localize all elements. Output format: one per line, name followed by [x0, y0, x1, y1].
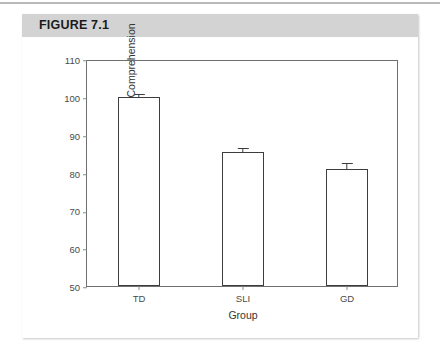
- x-axis-title: Group: [87, 309, 399, 321]
- page-top-rule: [0, 2, 440, 4]
- y-tick-mark: [83, 212, 87, 213]
- error-bar-sli: [242, 148, 243, 153]
- y-tick-mark: [83, 250, 87, 251]
- bar-column: [326, 59, 368, 286]
- y-tick: 80: [69, 170, 87, 180]
- y-tick-mark: [83, 136, 87, 137]
- bar-sli: [222, 152, 264, 286]
- error-bar-gd: [346, 163, 347, 169]
- y-tick: 60: [69, 245, 87, 255]
- x-tick-mark: [243, 286, 244, 290]
- x-tick-label-sli: SLI: [236, 293, 250, 304]
- y-tick: 110: [65, 56, 87, 66]
- figure-number-label: FIGURE 7.1: [39, 18, 109, 32]
- y-tick: 70: [69, 208, 87, 218]
- x-tick-mark: [139, 286, 140, 290]
- bar-gd: [326, 169, 368, 286]
- y-tick-mark: [83, 61, 87, 62]
- x-tick-mark: [347, 286, 348, 290]
- bar-td: [118, 97, 160, 286]
- y-tick-mark: [83, 174, 87, 175]
- chart-axes-frame: Standard Score for Reading Comprehension…: [86, 60, 398, 287]
- y-tick-label: 60: [69, 245, 83, 255]
- chart-plot-area: Standard Score for Reading Comprehension…: [22, 37, 418, 338]
- y-tick-label: 50: [69, 283, 83, 293]
- bar-column: [118, 59, 160, 286]
- figure-header-band: FIGURE 7.1: [22, 14, 418, 37]
- y-tick-label: 80: [69, 170, 83, 180]
- y-tick: 90: [69, 132, 87, 142]
- y-tick-label: 110: [65, 56, 83, 66]
- error-bar-cap: [341, 163, 352, 164]
- error-bar-cap: [237, 148, 248, 149]
- y-tick: 100: [64, 94, 87, 104]
- x-tick-label-gd: GD: [340, 293, 354, 304]
- y-tick-label: 100: [64, 94, 83, 104]
- x-tick-label-td: TD: [133, 293, 146, 304]
- y-tick: 50: [69, 283, 87, 293]
- error-bar-cap: [133, 94, 144, 95]
- y-tick-mark: [83, 98, 87, 99]
- y-tick-mark: [83, 288, 87, 289]
- y-tick-label: 70: [69, 208, 83, 218]
- error-bar-td: [138, 94, 139, 97]
- bar-column: [222, 59, 264, 286]
- figure-card: FIGURE 7.1 Standard Score for Reading Co…: [22, 14, 418, 338]
- y-tick-label: 90: [69, 132, 83, 142]
